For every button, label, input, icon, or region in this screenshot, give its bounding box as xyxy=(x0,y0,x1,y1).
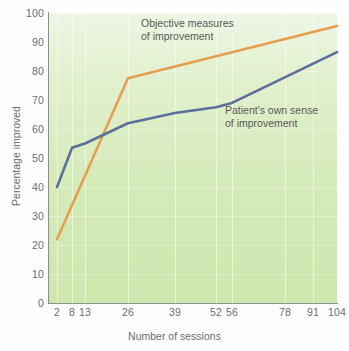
x-tick-label: 13 xyxy=(79,306,91,318)
annotation-patient-own-sense: Patient's own sense of improvement xyxy=(225,104,318,130)
annotation-objective-measures: Objective measures of improvement xyxy=(141,17,234,43)
series-line xyxy=(57,26,337,239)
chart-series-lines xyxy=(0,0,349,351)
x-tick-label: 78 xyxy=(279,306,291,318)
y-axis-title: Percentage improved xyxy=(10,76,22,236)
x-axis-title: Number of sessions xyxy=(0,330,349,342)
figure-container: 0102030405060708090100 Objective measure… xyxy=(0,0,349,351)
x-tick-label: 52 xyxy=(210,306,222,318)
x-tick-label: 104 xyxy=(328,306,346,318)
x-tick-label: 91 xyxy=(307,306,319,318)
x-tick-label: 56 xyxy=(226,306,238,318)
x-tick-label: 39 xyxy=(169,306,181,318)
x-tick-label: 8 xyxy=(69,306,75,318)
x-tick-label: 26 xyxy=(122,306,134,318)
x-tick-label: 2 xyxy=(54,306,60,318)
